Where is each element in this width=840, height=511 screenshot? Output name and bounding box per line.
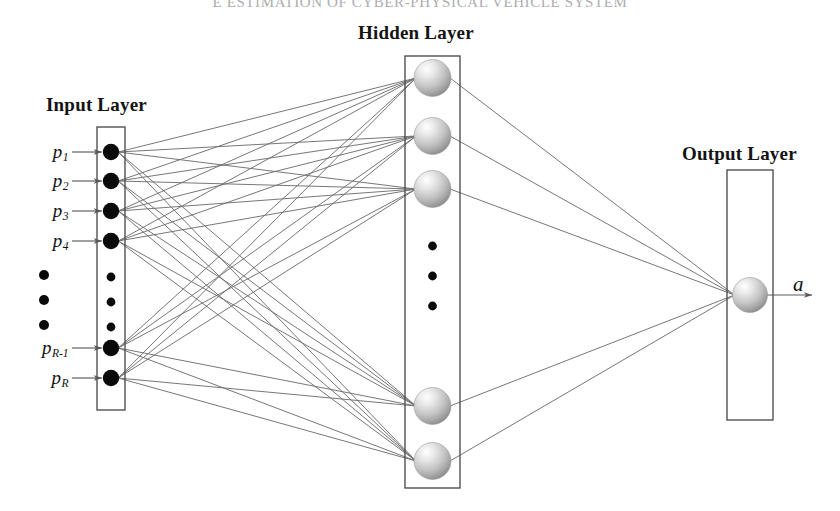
edge-input4-hidden5 [118,241,416,461]
input-label-base: p [42,337,52,358]
edge-input4-hidden4 [118,241,416,406]
input-label-subscript: 3 [63,210,69,222]
edge-input1-hidden3 [118,152,416,189]
input-label-subscript: R-1 [52,347,69,359]
hidden-ellipsis-dot-2 [428,272,437,281]
edge-input6-hidden3 [118,189,416,378]
input-label-p4: p4 [20,230,68,252]
input-node-6 [103,370,119,386]
edge-input1-hidden5 [118,152,416,461]
hidden-node-1 [414,60,451,97]
network-canvas [0,0,840,511]
edge-input6-hidden4 [118,378,416,406]
input-label-base: p [53,170,63,191]
output-node-1 [733,278,768,313]
input-label-subscript: 4 [63,240,69,252]
edge-hidden1-output [450,78,735,295]
edge-input2-hidden3 [118,181,416,189]
edge-input6-hidden2 [118,136,416,378]
output-value-label: a [793,272,804,297]
input-label-base: p [53,230,63,251]
edge-input4-hidden2 [118,136,416,241]
input-node-2 [103,173,119,189]
input-label-p2: p2 [20,170,68,192]
edge-input5-hidden2 [118,136,416,348]
edge-input1-hidden4 [118,152,416,406]
input-label-pR: pR [20,367,68,389]
edge-input2-hidden2 [118,136,416,181]
hidden-node-4 [414,388,451,425]
edge-input1-hidden1 [118,78,416,152]
input-label-base: p [53,200,63,221]
hidden-node-2 [414,118,451,155]
edge-input2-hidden1 [118,78,416,181]
input-node-1 [103,144,119,160]
input-layer-box [97,127,125,410]
edge-input2-hidden5 [118,181,416,461]
edge-input4-hidden1 [118,78,416,241]
input-label-subscript: 1 [63,151,69,163]
edge-input3-hidden1 [118,78,416,211]
hidden-node-5 [414,443,451,480]
hidden-ellipsis-dot-3 [428,302,437,311]
input-node-3 [103,203,119,219]
input-label-base: p [53,141,63,162]
edge-hidden3-output [450,189,735,295]
input-label-ellipsis-dot-1 [39,270,49,280]
input-ellipsis-dot-2 [107,298,116,307]
hidden-ellipsis-dot-1 [428,242,437,251]
input-label-pR-1: pR-1 [20,337,68,359]
edge-input6-hidden1 [118,78,416,378]
input-label-subscript: 2 [63,180,69,192]
input-label-base: p [51,367,61,388]
edge-input5-hidden5 [118,348,416,461]
edge-hidden2-output [450,136,735,295]
network-nodes [39,60,768,480]
input-label-p3: p3 [20,200,68,222]
input-ellipsis-dot-3 [107,323,116,332]
edge-hidden4-output [450,295,735,406]
input-ellipsis-dot-1 [107,273,116,282]
input-label-ellipsis-dot-3 [39,320,49,330]
hidden-node-3 [414,171,451,208]
edge-input3-hidden5 [118,211,416,461]
input-node-5 [103,340,119,356]
input-node-4 [103,233,119,249]
input-label-subscript: R [61,377,68,389]
neural-network-diagram: E ESTIMATION OF CYBER-PHYSICAL VEHICLE S… [0,0,840,511]
input-label-ellipsis-dot-2 [39,295,49,305]
input-label-p1: p1 [20,141,68,163]
edge-hidden5-output [450,295,735,461]
